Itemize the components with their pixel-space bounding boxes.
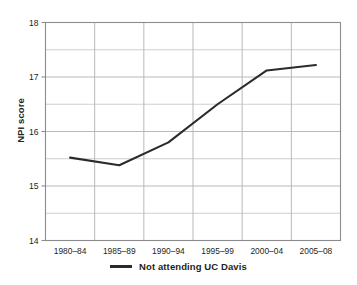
y-tick-labels: 1415161718 bbox=[29, 18, 39, 246]
y-tick-label: 18 bbox=[29, 18, 39, 28]
legend-line-swatch bbox=[110, 265, 132, 268]
y-tick-label: 14 bbox=[29, 236, 39, 246]
y-tick-label: 16 bbox=[29, 127, 39, 137]
x-tick-label: 1980–84 bbox=[54, 246, 87, 256]
x-tick-label: 2000–04 bbox=[250, 246, 283, 256]
legend-item-label: Not attending UC Davis bbox=[139, 261, 247, 272]
x-tick-label: 2005–08 bbox=[300, 246, 333, 256]
x-tick-labels: 1980–841985–891990–941995–992000–042005–… bbox=[54, 246, 333, 256]
chart-container: 1415161718 1980–841985–891990–941995–992… bbox=[0, 0, 357, 285]
chart-legend: Not attending UC Davis bbox=[0, 261, 357, 272]
x-tick-label: 1985–89 bbox=[103, 246, 136, 256]
y-tick-label: 17 bbox=[29, 72, 39, 82]
line-chart-plot: 1415161718 1980–841985–891990–941995–992… bbox=[0, 0, 357, 285]
y-tick-label: 15 bbox=[29, 181, 39, 191]
x-tick-label: 1990–94 bbox=[152, 246, 185, 256]
x-tick-label: 1995–99 bbox=[201, 246, 234, 256]
